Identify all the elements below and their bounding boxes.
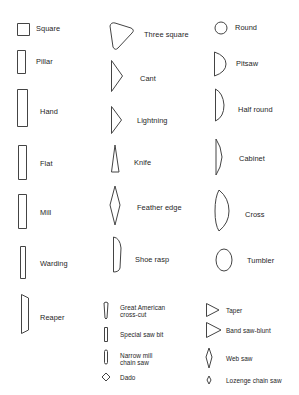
lightning-section-icon bbox=[112, 107, 122, 134]
narrow-mill-section-icon bbox=[105, 350, 108, 364]
label-hand: Hand bbox=[40, 108, 58, 116]
square-section-icon bbox=[18, 24, 30, 36]
label-pitsaw: Pitsaw bbox=[236, 60, 258, 68]
label-half-round: Half round bbox=[238, 106, 273, 114]
label-lightning: Lightning bbox=[137, 117, 167, 125]
label-reaper: Reaper bbox=[40, 314, 65, 322]
label-web-saw: Web saw bbox=[226, 355, 253, 362]
mill-section-icon bbox=[19, 195, 27, 229]
band-saw-blunt-section-icon bbox=[207, 323, 222, 338]
label-three-square: Three square bbox=[144, 31, 189, 39]
label-taper: Taper bbox=[226, 307, 242, 314]
label-dado: Dado bbox=[120, 374, 135, 381]
web-saw-section-icon bbox=[206, 348, 212, 368]
label-cabinet: Cabinet bbox=[239, 155, 265, 163]
dado-section-icon bbox=[102, 373, 110, 381]
label-square: Square bbox=[36, 25, 60, 33]
label-narrow-mill-line1: Narrow mill bbox=[120, 352, 153, 359]
hand-section-icon bbox=[18, 90, 28, 127]
label-mill: Mill bbox=[40, 209, 51, 217]
label-feather-edge: Feather edge bbox=[137, 204, 182, 212]
three-square-section-icon bbox=[110, 23, 133, 49]
knife-section-icon bbox=[112, 145, 120, 172]
cross-section-icon bbox=[215, 190, 229, 231]
feather-edge-section-icon bbox=[110, 186, 120, 225]
pillar-section-icon bbox=[18, 51, 26, 74]
flat-section-icon bbox=[19, 146, 27, 180]
warding-section-icon bbox=[21, 247, 26, 279]
half-round-section-icon bbox=[216, 89, 225, 121]
label-great-american-line1: Great American bbox=[120, 304, 165, 311]
label-warding: Warding bbox=[40, 260, 68, 268]
label-lozenge-chain-saw: Lozenge chain saw bbox=[226, 377, 282, 384]
cant-section-icon bbox=[112, 61, 123, 92]
cabinet-section-icon bbox=[216, 139, 222, 175]
label-special-saw-bit: Special saw bit bbox=[120, 331, 163, 338]
shoe-rasp-section-icon bbox=[114, 237, 122, 272]
label-shoe-rasp: Shoe rasp bbox=[135, 256, 169, 264]
label-narrow-mill-line2: chain saw bbox=[120, 359, 149, 366]
label-pillar: Pillar bbox=[36, 58, 53, 66]
file-shapes-diagram: Square Pillar Hand Flat Mill Warding Rea… bbox=[0, 0, 299, 395]
label-great-american-line2: cross-cut bbox=[120, 311, 146, 318]
label-tumbler: Tumbler bbox=[247, 257, 274, 265]
pitsaw-section-icon bbox=[215, 52, 227, 76]
round-section-icon bbox=[215, 22, 227, 34]
label-flat: Flat bbox=[40, 160, 53, 168]
label-knife: Knife bbox=[134, 159, 151, 167]
taper-section-icon bbox=[207, 304, 220, 317]
great-american-section-icon bbox=[104, 302, 108, 319]
label-cross: Cross bbox=[245, 211, 265, 219]
label-band-saw-blunt: Band saw-blunt bbox=[226, 327, 271, 334]
special-saw-bit-section-icon bbox=[105, 328, 108, 342]
label-cant: Cant bbox=[140, 75, 156, 83]
reaper-section-icon bbox=[22, 295, 29, 334]
lozenge-chain-saw-section-icon bbox=[207, 376, 211, 384]
tumbler-section-icon bbox=[216, 249, 232, 271]
label-round: Round bbox=[235, 24, 257, 32]
